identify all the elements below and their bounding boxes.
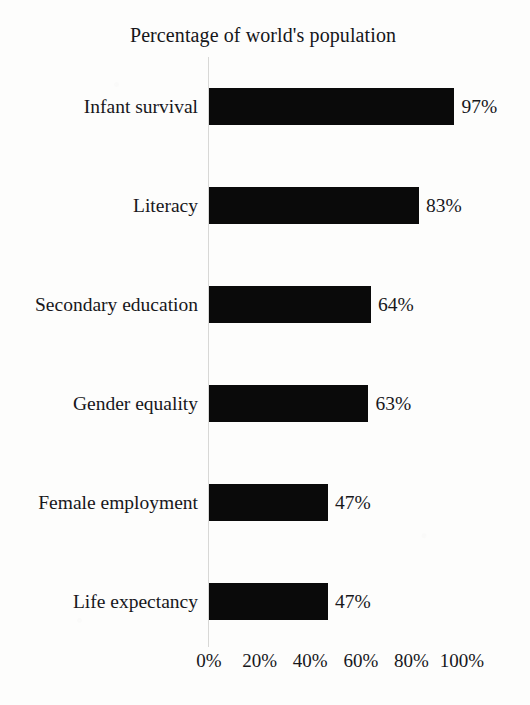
chart-title: Percentage of world's population <box>0 24 530 47</box>
x-tick-label: 20% <box>242 648 277 674</box>
bar <box>209 484 328 521</box>
bar-row: Infant survival97% <box>0 88 530 125</box>
bar-value-label: 97% <box>454 88 497 125</box>
bar-category-label: Life expectancy <box>0 583 198 620</box>
bar <box>209 187 419 224</box>
bar-category-label: Gender equality <box>0 385 198 422</box>
bar-value-label: 47% <box>328 583 371 620</box>
x-tick-label: 0% <box>196 648 221 674</box>
bar-value-label: 83% <box>419 187 462 224</box>
bar-category-label: Literacy <box>0 187 198 224</box>
bar <box>209 286 371 323</box>
bar-row: Female employment47% <box>0 484 530 521</box>
category-axis-line <box>208 57 209 647</box>
bar <box>209 88 454 125</box>
bar-value-label: 64% <box>371 286 414 323</box>
plot-area: Percentage of world's population Infant … <box>0 0 530 705</box>
bar-row: Literacy83% <box>0 187 530 224</box>
bar-category-label: Secondary education <box>0 286 198 323</box>
bar <box>209 385 368 422</box>
bar <box>209 583 328 620</box>
x-tick-label: 80% <box>394 648 429 674</box>
x-tick-label: 40% <box>293 648 328 674</box>
bar-row: Life expectancy47% <box>0 583 530 620</box>
bar-value-label: 63% <box>368 385 411 422</box>
bar-row: Secondary education64% <box>0 286 530 323</box>
chart-title-text: Percentage of world's population <box>130 24 396 47</box>
x-tick-label: 60% <box>343 648 378 674</box>
bar-category-label: Female employment <box>0 484 198 521</box>
x-axis-tick-labels: 0%20%40%60%80%100% <box>0 648 530 676</box>
x-tick-label: 100% <box>440 648 484 674</box>
bar-category-label: Infant survival <box>0 88 198 125</box>
bar-row: Gender equality63% <box>0 385 530 422</box>
bar-value-label: 47% <box>328 484 371 521</box>
chart-container: Percentage of world's population Infant … <box>0 0 530 705</box>
